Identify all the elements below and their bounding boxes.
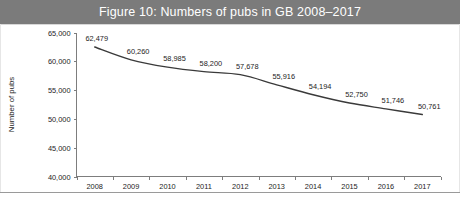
data-point-label: 58,200	[200, 59, 223, 68]
y-axis-tick-label: 40,000	[48, 173, 71, 182]
x-axis-tick-label: 2014	[305, 182, 321, 191]
data-point-label: 54,194	[309, 82, 332, 91]
y-axis: 65,00060,00055,00050,00045,00040,000	[48, 29, 77, 182]
y-axis-title-group: Number of pubs	[7, 77, 16, 133]
x-axis-tick-label: 2009	[123, 182, 139, 191]
line-chart-svg: 65,00060,00055,00050,00045,00040,000 200…	[0, 24, 460, 192]
series-line-number-of-pubs	[95, 47, 423, 115]
x-axis-tick-label: 2011	[196, 182, 212, 191]
data-point-label: 60,260	[127, 47, 150, 56]
figure-container: Figure 10: Numbers of pubs in GB 2008–20…	[0, 0, 460, 202]
y-axis-tick-label: 45,000	[48, 144, 71, 153]
figure-title: Figure 10: Numbers of pubs in GB 2008–20…	[99, 5, 361, 19]
y-axis-tick-label: 55,000	[48, 86, 71, 95]
data-point-label: 62,479	[85, 34, 108, 43]
data-point-label: 51,746	[382, 96, 405, 105]
x-axis-tick-label: 2008	[86, 182, 102, 191]
x-axis-tick-label: 2012	[232, 182, 248, 191]
x-axis-tick-label: 2013	[268, 182, 284, 191]
data-point-label: 50,761	[418, 102, 441, 111]
y-axis-tick-label: 60,000	[48, 57, 71, 66]
x-axis-tick-label: 2016	[378, 182, 394, 191]
data-point-labels: 62,47960,26058,98558,20057,67855,91654,1…	[85, 34, 440, 110]
y-axis-tick-label: 65,000	[48, 29, 71, 38]
y-axis-title: Number of pubs	[7, 77, 16, 133]
figure-title-banner: Figure 10: Numbers of pubs in GB 2008–20…	[0, 0, 460, 24]
data-series	[95, 47, 423, 115]
x-axis-tick-label: 2017	[414, 182, 430, 191]
data-point-label: 55,916	[272, 72, 295, 81]
data-point-label: 58,985	[163, 54, 186, 63]
data-point-label: 52,750	[345, 90, 368, 99]
frame-bottom-rule	[0, 192, 460, 193]
chart-plot-region: 65,00060,00055,00050,00045,00040,000 200…	[0, 24, 460, 192]
x-axis: 2008200920102011201220132014201520162017	[77, 177, 442, 191]
data-point-label: 57,678	[236, 62, 259, 71]
x-axis-tick-label: 2015	[341, 182, 357, 191]
y-axis-tick-label: 50,000	[48, 115, 71, 124]
x-axis-tick-label: 2010	[159, 182, 175, 191]
